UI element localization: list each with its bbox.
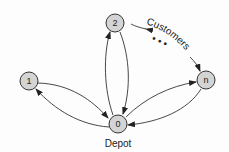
customers-arc-end	[190, 57, 200, 71]
customers-arc	[131, 24, 146, 29]
node-n: n	[197, 71, 215, 89]
customers-label: Customers	[145, 15, 192, 51]
node-n-label: n	[203, 75, 208, 85]
edge-n-to-0	[128, 89, 201, 125]
edge-0-to-2	[105, 32, 113, 115]
node-2: 2	[106, 14, 124, 32]
node-1-label: 1	[26, 76, 31, 86]
edge-2-to-0	[120, 32, 128, 114]
edge-1-to-0	[38, 83, 108, 118]
diagram-svg: Customers • • • 0 1 2 n Depot	[0, 0, 229, 152]
depot-label: Depot	[105, 138, 132, 149]
node-0: 0	[109, 115, 127, 133]
node-0-label: 0	[115, 119, 120, 129]
node-1: 1	[20, 72, 38, 90]
node-2-label: 2	[112, 18, 117, 28]
edge-0-to-n	[126, 82, 196, 117]
routing-diagram: Customers • • • 0 1 2 n Depot	[0, 0, 229, 152]
